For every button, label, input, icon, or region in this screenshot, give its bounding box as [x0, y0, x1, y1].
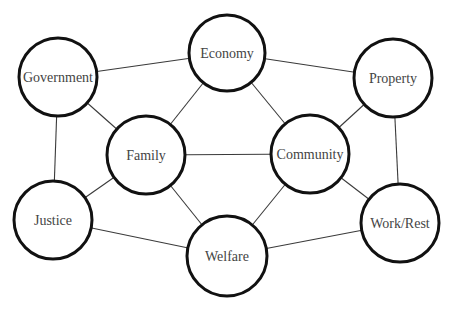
node-family: Family: [107, 116, 185, 194]
node-workrest: Work/Rest: [361, 184, 439, 262]
node-welfare: Welfare: [187, 216, 267, 296]
node-label: Welfare: [205, 249, 249, 264]
node-label: Economy: [200, 46, 254, 61]
node-property: Property: [354, 39, 432, 117]
node-label: Justice: [34, 213, 72, 228]
node-label: Community: [277, 147, 344, 162]
node-justice: Justice: [14, 181, 92, 259]
node-label: Family: [126, 148, 166, 163]
node-label: Government: [23, 70, 93, 85]
nodes-layer: EconomyGovernmentPropertyFamilyCommunity…: [14, 15, 439, 296]
network-diagram: EconomyGovernmentPropertyFamilyCommunity…: [0, 0, 453, 310]
node-community: Community: [271, 115, 349, 193]
node-economy: Economy: [189, 15, 265, 91]
node-government: Government: [19, 38, 97, 116]
node-label: Property: [369, 71, 417, 86]
node-label: Work/Rest: [370, 216, 430, 231]
